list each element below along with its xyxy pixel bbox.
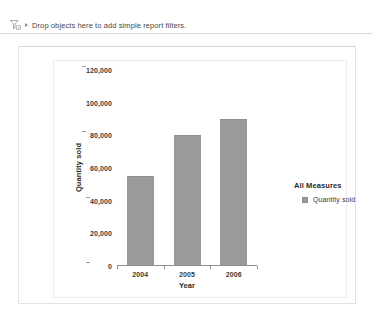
- legend-items: Quantity sold: [294, 196, 372, 203]
- x-axis-title: Year: [117, 281, 257, 290]
- category-axis-label: 2005: [179, 271, 195, 278]
- y-axis-tick-label: 20,000: [90, 230, 117, 237]
- bar[interactable]: [174, 135, 201, 266]
- y-axis-tick-mark: [86, 262, 90, 263]
- category-tick-mark: [257, 266, 258, 269]
- filter-funnel-icon: [9, 19, 22, 31]
- category-axis-label: 2004: [132, 271, 148, 278]
- y-axis-tick-mark: [82, 66, 86, 67]
- chevron-down-icon[interactable]: [25, 23, 28, 27]
- chart-legend: All Measures Quantity sold: [294, 181, 372, 203]
- y-axis-tick-label: 80,000: [90, 132, 117, 139]
- report-panel: Quantity sold 120,000100,00080,00060,000…: [18, 46, 356, 304]
- legend-item[interactable]: Quantity sold: [302, 196, 372, 203]
- plot-area: 120,000100,00080,00060,00040,00020,0000 …: [117, 70, 257, 266]
- legend-swatch-icon: [302, 197, 308, 203]
- bar[interactable]: [220, 119, 247, 266]
- legend-title: All Measures: [294, 181, 372, 190]
- bar-chart[interactable]: Quantity sold 120,000100,00080,00060,000…: [53, 60, 347, 298]
- y-axis-tick-label: 40,000: [90, 197, 117, 204]
- category-axis: [117, 265, 257, 266]
- category-tick-mark: [210, 266, 211, 269]
- category-tick-mark: [117, 266, 118, 269]
- y-axis-tick-label: 100,000: [86, 99, 117, 106]
- y-axis-tick-label: 0: [108, 263, 117, 270]
- category-axis-label: 2006: [226, 271, 242, 278]
- y-axis-tick-label: 60,000: [90, 165, 117, 172]
- legend-item-label: Quantity sold: [313, 196, 355, 203]
- report-filter-dropzone[interactable]: Drop objects here to add simple report f…: [0, 17, 372, 34]
- category-tick-mark: [164, 266, 165, 269]
- y-axis-tick-label: 120,000: [86, 67, 117, 74]
- bar[interactable]: [127, 176, 154, 266]
- y-axis-tick-mark: [82, 131, 86, 132]
- y-axis-title: Quantity sold: [72, 121, 86, 213]
- y-axis-title-label: Quantity sold: [75, 142, 84, 191]
- filter-dropzone-label: Drop objects here to add simple report f…: [32, 21, 186, 30]
